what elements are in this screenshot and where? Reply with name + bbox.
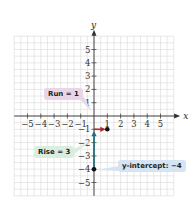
- y-axis-arrow-icon: [92, 30, 97, 36]
- x-tick-label: −3: [48, 119, 61, 129]
- x-tick-label: −2: [61, 119, 74, 129]
- y-tick-label: 4: [85, 58, 90, 68]
- y-tick-label: −5: [78, 178, 91, 188]
- x-tick-label: 5: [158, 119, 163, 129]
- y-tick-label: −4: [78, 164, 91, 174]
- y-tick-label: −1: [78, 124, 91, 134]
- y-tick-label: 3: [85, 71, 90, 81]
- rise-label: Rise = 3: [34, 146, 74, 158]
- y-axis-label: y: [90, 20, 97, 30]
- y-tick-label: 2: [85, 84, 90, 94]
- run-label: Run = 1: [44, 88, 83, 100]
- data-point: [92, 167, 97, 172]
- y-intercept-label: y-intercept: −4: [118, 160, 186, 172]
- coordinate-plane: xy −5−4−3−2−11234554321−1−2−3−4−5: [0, 0, 195, 206]
- x-tick-label: 4: [144, 119, 149, 129]
- x-tick-label: 3: [131, 119, 136, 129]
- x-axis-arrow-icon: [174, 114, 180, 119]
- x-tick-label: −4: [35, 119, 48, 129]
- y-tick-label: 5: [85, 45, 90, 55]
- x-axis-label: x: [183, 111, 188, 121]
- rise-arrow-icon: [91, 131, 96, 137]
- data-point: [105, 127, 110, 132]
- y-tick-label: −3: [78, 151, 91, 161]
- x-tick-label: −5: [21, 119, 34, 129]
- x-tick-label: 2: [118, 119, 123, 129]
